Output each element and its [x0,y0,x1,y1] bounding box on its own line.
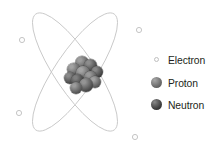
legend-label-electron: Electron [168,54,205,67]
electron-upper-left [19,37,24,42]
proton-swatch-icon [150,76,164,90]
atom-diagram: Electron Proton Neutron [0,0,220,145]
legend-item-neutron: Neutron [150,98,206,112]
legend-label-proton: Proton [168,77,198,90]
electron-lower-right [132,134,137,139]
nucleon-proton [70,82,82,94]
legend-item-proton: Proton [150,76,200,90]
electron-lower-left [16,110,21,115]
legend-label-neutron: Neutron [168,99,204,112]
electron-swatch-icon [150,53,164,67]
electron-upper-right [136,27,141,32]
legend-item-electron: Electron [150,53,208,67]
neutron-swatch-icon [150,98,164,112]
nucleus-cluster [62,53,104,95]
legend: Electron Proton Neutron [150,50,220,120]
